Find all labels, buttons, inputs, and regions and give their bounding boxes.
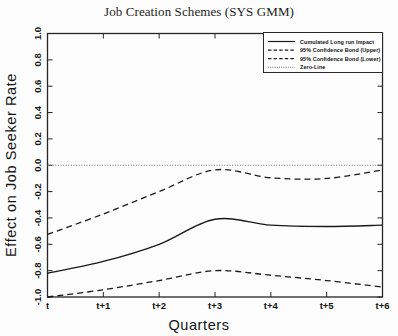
legend-label-1: Cumulated Long run Impact: [300, 39, 374, 45]
x-tick-label: t+6: [376, 300, 390, 311]
y-tick-label: -0.2: [32, 183, 43, 199]
y-tick-label: 0.2: [32, 132, 43, 145]
series-line-1: [48, 219, 383, 274]
x-tick-label: t+4: [264, 300, 279, 311]
x-axis-tick-labels: tt+1t+2t+3t+4t+5t+6: [46, 300, 390, 311]
x-tick-label: t+2: [152, 300, 166, 311]
y-axis-tick-labels: 1.00.80.60.40.20.0-0.2-0.4-0.6-0.8-1.0: [32, 27, 43, 305]
y-tick-label: 0.0: [32, 159, 43, 172]
data-series-group: [48, 165, 383, 297]
y-axis-label: Effect on Job Seeker Rate: [3, 73, 19, 257]
legend-label-3: 95% Confidence Bond (Lower): [300, 56, 381, 62]
x-axis-label: Quarters: [168, 317, 229, 333]
y-tick-label: 0.8: [32, 53, 43, 66]
y-tick-label: -0.4: [32, 209, 43, 226]
chart-figure: Job Creation Schemes (SYS GMM) 1.00.80.6…: [0, 0, 398, 336]
y-tick-label: -0.6: [32, 236, 43, 252]
x-tick-label: t: [46, 300, 50, 311]
y-tick-label: -0.8: [32, 262, 43, 278]
y-tick-label: 0.4: [32, 105, 43, 119]
y-tick-label: 1.0: [32, 27, 43, 40]
series-line-2: [48, 169, 383, 234]
y-tick-label: -1.0: [32, 289, 43, 305]
y-tick-label: 0.6: [32, 80, 43, 93]
x-tick-label: t+1: [96, 300, 111, 311]
x-tick-label: t+5: [320, 300, 335, 311]
plot-canvas: 1.00.80.60.40.20.0-0.2-0.4-0.6-0.8-1.0 t…: [0, 0, 398, 336]
legend-label-4: Zero-Line: [300, 64, 325, 70]
chart-legend: Cumulated Long run Impact95% Confidence …: [264, 33, 383, 73]
legend-label-2: 95% Confidence Bond (Upper): [300, 47, 380, 53]
x-tick-label: t+3: [208, 300, 222, 311]
